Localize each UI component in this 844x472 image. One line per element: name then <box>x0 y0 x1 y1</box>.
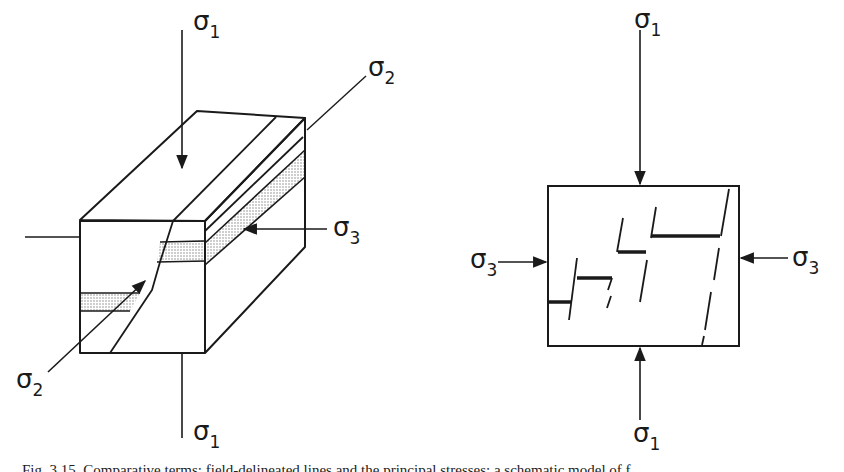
label-sigma2-bottom: σ2 <box>16 364 43 400</box>
label-right-sigma1-bottom: σ1 <box>633 418 660 454</box>
label-right-sigma1-top: σ1 <box>634 4 661 40</box>
label-sigma1-top: σ1 <box>193 6 220 42</box>
right-cross-section <box>498 30 788 420</box>
label-sigma3: σ3 <box>333 212 360 248</box>
figure-canvas: σ1 σ2 σ3 σ2 σ1 σ1 <box>0 0 844 472</box>
sigma2-axis-upper <box>307 76 366 130</box>
fault-traces <box>569 189 729 345</box>
layer-line-front-1 <box>160 241 205 242</box>
right-labels: σ1 σ3 σ3 σ1 <box>470 4 819 454</box>
layer-line-right-face-lower <box>205 177 305 265</box>
label-right-sigma3-right: σ3 <box>792 242 819 278</box>
figure-caption: Fig. 3.15. Comparative terms; field-deli… <box>22 461 844 472</box>
label-right-sigma3-left: σ3 <box>470 244 497 280</box>
shaded-layer-right-face <box>205 150 305 265</box>
label-sigma1-bottom: σ1 <box>193 416 220 452</box>
layer-line-front-2 <box>157 261 205 262</box>
shaded-layer-front-lower <box>80 293 140 311</box>
fault-trace-front <box>110 221 173 353</box>
left-block-diagram <box>25 30 366 438</box>
label-sigma2-top: σ2 <box>368 52 395 88</box>
